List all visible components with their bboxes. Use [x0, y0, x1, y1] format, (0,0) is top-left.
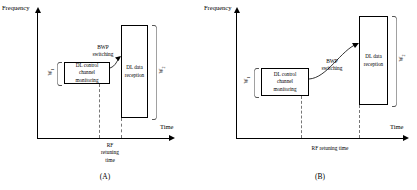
- w1-subscript-a: 1: [51, 69, 55, 71]
- w1-brace-a: [57, 62, 62, 86]
- w1-symbol-a: W: [47, 71, 53, 76]
- w2-subscript-a: 2: [162, 67, 166, 69]
- bwp-switching-arrow-b: [209, 0, 417, 190]
- rf-retuning-time-label-b: RF retuning time: [295, 145, 365, 152]
- rf-retuning-time-label-a: RF retuning time: [85, 142, 135, 164]
- panel-b: Frequency Time DL control channel monito…: [209, 0, 417, 190]
- w2-brace-a: [152, 25, 157, 120]
- w2-subscript-b: 2: [402, 55, 406, 57]
- w1-label-a: W1: [47, 65, 55, 79]
- w1-subscript-b: 1: [247, 77, 251, 79]
- w1-label-b: W1: [243, 73, 251, 87]
- panel-a: Frequency Time DL control channel monito…: [0, 0, 208, 190]
- w2-symbol-b: W: [398, 57, 404, 62]
- w2-label-a: W2: [158, 63, 166, 77]
- panel-a-caption: (A): [75, 172, 135, 181]
- retuning-line1-a: RF: [107, 142, 114, 148]
- w1-symbol-b: W: [243, 79, 249, 84]
- w2-brace-b: [392, 16, 397, 107]
- retuning-line1-b: RF retuning time: [312, 145, 349, 151]
- w1-brace-b: [254, 68, 259, 98]
- retuning-line2-a: retuning: [101, 149, 119, 155]
- retuning-line3-a: time: [105, 157, 115, 163]
- panel-b-caption: (B): [290, 172, 350, 181]
- w2-symbol-a: W: [158, 69, 164, 74]
- w2-label-b: W2: [398, 51, 406, 65]
